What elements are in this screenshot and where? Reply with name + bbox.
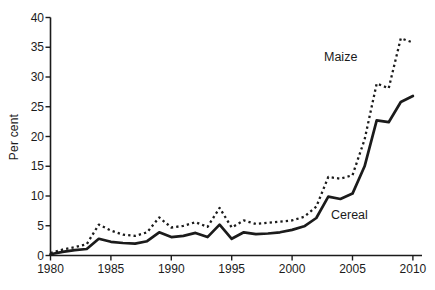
series-label-cereal: Cereal — [331, 208, 368, 222]
y-tick-label: 15 — [31, 159, 45, 173]
y-tick-label: 35 — [31, 40, 45, 54]
x-tick-label: 1985 — [98, 262, 125, 276]
cereal-line — [51, 96, 413, 254]
plot-area: 0510152025303540198019851990199520002005… — [0, 0, 435, 290]
y-tick-label: 20 — [31, 130, 45, 144]
chart-figure: 0510152025303540198019851990199520002005… — [0, 0, 435, 290]
y-tick-label: 5 — [37, 219, 44, 233]
y-tick-label: 0 — [37, 249, 44, 263]
y-tick-label: 30 — [31, 70, 45, 84]
x-tick-label: 2000 — [279, 262, 306, 276]
y-tick-label: 40 — [31, 11, 45, 25]
x-tick-label: 2005 — [339, 262, 366, 276]
series-label-maize: Maize — [324, 50, 357, 64]
y-tick-label: 25 — [31, 100, 45, 114]
x-tick-label: 1980 — [37, 262, 64, 276]
x-tick-label: 1990 — [158, 262, 185, 276]
x-tick-label: 1995 — [218, 262, 245, 276]
y-tick-label: 10 — [31, 189, 45, 203]
y-axis-label: Per cent — [7, 114, 21, 160]
x-tick-label: 2010 — [400, 262, 427, 276]
